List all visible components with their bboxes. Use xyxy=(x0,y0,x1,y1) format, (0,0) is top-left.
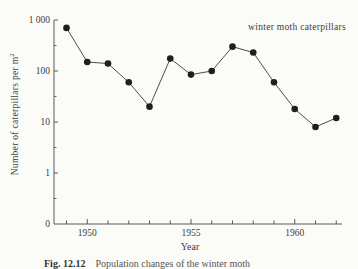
data-point-1955 xyxy=(188,71,195,78)
data-point-1951 xyxy=(105,60,112,67)
figure-caption: Fig. 12.12Population changes of the wint… xyxy=(44,258,250,269)
y-axis-title: Number of caterpillars per m2 xyxy=(8,14,20,214)
x-tick-label: 1955 xyxy=(169,228,213,239)
data-point-1961 xyxy=(312,124,319,131)
data-point-1962 xyxy=(333,115,340,122)
data-point-1960 xyxy=(291,106,298,113)
y-axis-title-exponent: 2 xyxy=(8,53,16,57)
figure-caption-text: Population changes of the winter moth xyxy=(95,258,250,269)
series-annotation: winter moth caterpillars xyxy=(248,22,346,32)
y-tick-label: 1 000 xyxy=(0,14,50,26)
data-point-1954 xyxy=(167,55,174,62)
data-point-1957 xyxy=(229,43,236,50)
y-tick-label: 0 xyxy=(0,218,50,230)
figure-caption-number: Fig. 12.12 xyxy=(44,258,85,269)
y-tick-label: 1 xyxy=(0,167,50,179)
y-tick-label: 10 xyxy=(0,116,50,128)
x-tick-label: 1960 xyxy=(273,228,317,239)
y-tick-label: 100 xyxy=(0,65,50,77)
data-point-1950 xyxy=(84,59,91,66)
axes xyxy=(54,20,342,224)
data-point-1949 xyxy=(63,25,70,32)
data-point-1959 xyxy=(271,79,278,86)
x-axis-title: Year xyxy=(160,241,220,252)
data-point-1958 xyxy=(250,49,257,56)
data-point-1952 xyxy=(125,79,132,86)
data-point-1953 xyxy=(146,103,153,110)
x-tick-label: 1950 xyxy=(65,228,109,239)
data-point-1956 xyxy=(208,68,215,75)
